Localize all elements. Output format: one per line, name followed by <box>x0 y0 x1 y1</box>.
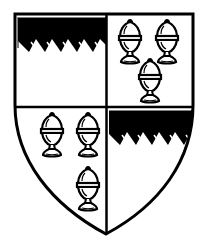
quarter-1-chief-dancetty <box>18 17 106 52</box>
quarter-4-chief-dancetty <box>109 110 197 145</box>
shield <box>0 0 207 250</box>
